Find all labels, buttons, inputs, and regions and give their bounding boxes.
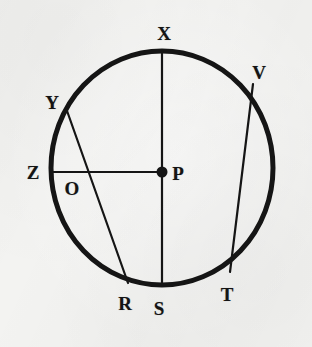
- point-label-y: Y: [45, 93, 59, 112]
- circle-diagram: [0, 0, 312, 347]
- point-label-p: P: [172, 164, 184, 183]
- geometry-figure: X V Y Z P O R S T: [0, 0, 312, 347]
- point-label-t: T: [221, 285, 234, 304]
- point-label-s: S: [154, 299, 165, 318]
- point-label-z: Z: [27, 163, 40, 182]
- point-label-o: O: [65, 179, 80, 198]
- point-label-v: V: [252, 63, 266, 82]
- point-label-r: R: [118, 294, 132, 313]
- point-label-x: X: [157, 24, 171, 43]
- center-point-dot: [157, 167, 168, 178]
